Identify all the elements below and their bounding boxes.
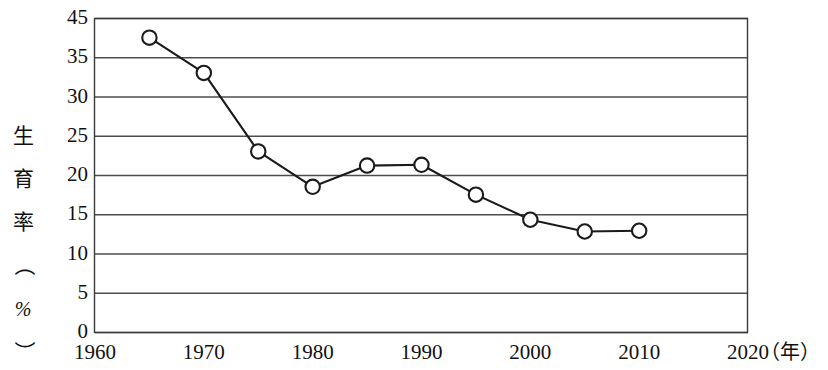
data-point-marker <box>251 144 265 158</box>
data-point-marker <box>578 224 592 238</box>
data-point-marker <box>305 180 319 194</box>
data-point-marker <box>469 187 483 201</box>
data-point-marker <box>632 224 646 238</box>
data-point-marker <box>197 66 211 80</box>
fertility-rate-line-chart: 生 育 率 （ % ） 4535302520151050 19601970198… <box>0 0 828 370</box>
data-point-markers <box>142 30 646 238</box>
data-point-marker <box>414 158 428 172</box>
data-point-marker <box>142 30 156 44</box>
plot-area <box>0 0 828 370</box>
data-point-marker <box>523 213 537 227</box>
data-point-marker <box>360 158 374 172</box>
data-line-series-fertility-rate <box>149 38 639 232</box>
